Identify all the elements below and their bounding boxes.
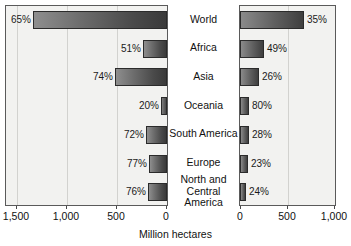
category-label-asia: Asia <box>169 62 238 91</box>
dual-panel-bar-chart: 65% 51% 74% 20% 72% 77% <box>0 0 351 246</box>
right-x-axis: 0 500 1,000 <box>239 206 336 224</box>
bar-label-left-oceania: 20% <box>119 97 159 115</box>
bar-row: 24% <box>240 178 335 206</box>
left-bar-rows: 65% 51% 74% 20% 72% 77% <box>6 6 167 205</box>
bar-row: 65% <box>6 6 167 35</box>
right-chart-panel: 35% 49% 26% 80% 28% 23% <box>239 5 336 206</box>
axis-tick <box>66 206 67 209</box>
axis-tick <box>16 206 17 209</box>
x-axis-title: Million hectares <box>0 228 351 240</box>
bar-row: 77% <box>6 150 167 179</box>
bar-label-right-north-central-america: 24% <box>249 183 289 201</box>
bar-row: 51% <box>6 35 167 64</box>
bar-row: 28% <box>240 121 335 150</box>
bar-left-north-central-america <box>148 183 167 201</box>
category-label-world: World <box>169 5 238 34</box>
axis-tick <box>240 206 241 209</box>
left-x-axis: 1,500 1,000 500 0 <box>5 206 168 224</box>
bar-right-world <box>240 11 304 29</box>
axis-tick-label-left-0: 0 <box>163 210 169 222</box>
bar-label-left-south-america: 72% <box>104 126 144 144</box>
bar-left-africa <box>143 40 167 58</box>
bar-right-north-central-america <box>240 183 246 201</box>
right-bar-rows: 35% 49% 26% 80% 28% 23% <box>240 6 335 205</box>
axis-tick-label-right-1000: 1,000 <box>321 210 347 222</box>
bar-row: 26% <box>240 63 335 92</box>
category-labels: World Africa Asia Oceania South America … <box>169 5 238 206</box>
left-chart-panel: 65% 51% 74% 20% 72% 77% <box>5 5 168 206</box>
bar-left-world <box>33 11 167 29</box>
bar-row: 23% <box>240 150 335 179</box>
bar-row: 20% <box>6 92 167 121</box>
bar-row: 76% <box>6 178 167 206</box>
category-label-africa: Africa <box>169 34 238 63</box>
bar-label-right-europe: 23% <box>251 155 291 173</box>
bar-right-africa <box>240 40 264 58</box>
bar-label-right-world: 35% <box>307 11 336 29</box>
axis-tick-label-right-0: 0 <box>237 210 243 222</box>
bar-row: 72% <box>6 121 167 150</box>
bar-left-oceania <box>161 97 167 115</box>
bar-row: 49% <box>240 35 335 64</box>
bar-row: 80% <box>240 92 335 121</box>
category-label-oceania: Oceania <box>169 91 238 120</box>
bar-left-europe <box>149 155 167 173</box>
bar-label-left-asia: 74% <box>73 68 113 86</box>
bar-left-asia <box>115 68 167 86</box>
bar-label-left-north-central-america: 76% <box>106 183 146 201</box>
axis-tick-label-left-1000: 1,000 <box>53 210 79 222</box>
axis-tick-label-left-1500: 1,500 <box>3 210 29 222</box>
bar-row: 74% <box>6 63 167 92</box>
bar-label-right-africa: 49% <box>267 40 307 58</box>
bar-label-left-europe: 77% <box>107 155 147 173</box>
bar-right-south-america <box>240 126 249 144</box>
bar-row: 35% <box>240 6 335 35</box>
bar-label-left-world: 65% <box>5 11 31 29</box>
axis-tick <box>116 206 117 209</box>
bar-label-right-south-america: 28% <box>252 126 292 144</box>
axis-tick-label-right-500: 500 <box>278 210 296 222</box>
bar-left-south-america <box>146 126 167 144</box>
bar-label-right-asia: 26% <box>262 68 302 86</box>
axis-tick <box>287 206 288 209</box>
category-label-south-america: South America <box>169 120 238 149</box>
category-label-north-central-america: North and Central America <box>169 177 238 206</box>
bar-right-asia <box>240 68 259 86</box>
bar-label-right-oceania: 80% <box>252 97 292 115</box>
bar-right-oceania <box>240 97 249 115</box>
bar-right-europe <box>240 155 248 173</box>
axis-tick-label-left-500: 500 <box>107 210 125 222</box>
axis-tick <box>166 206 167 209</box>
bar-label-left-africa: 51% <box>101 40 141 58</box>
axis-tick <box>334 206 335 209</box>
